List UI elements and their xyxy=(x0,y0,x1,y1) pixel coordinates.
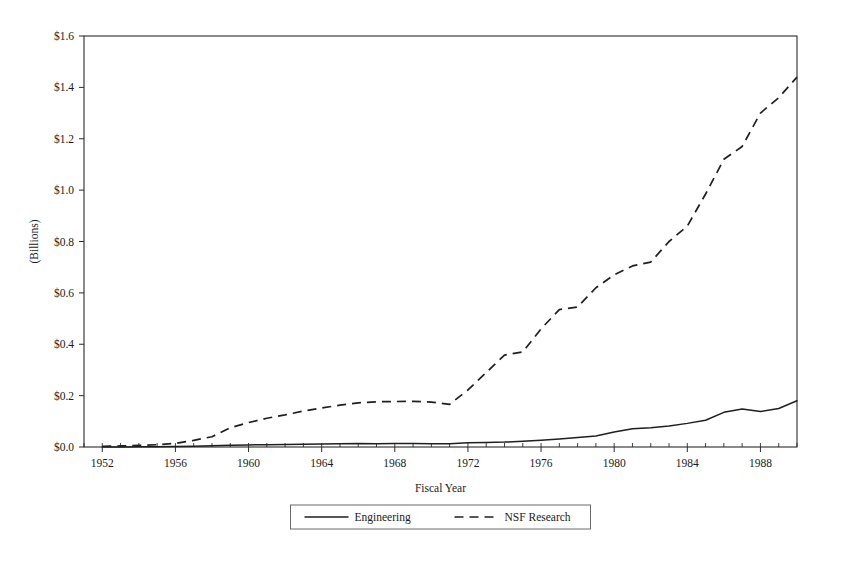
x-tick-label: 1972 xyxy=(456,457,479,469)
x-tick-label: 1980 xyxy=(603,457,626,469)
x-tick-label: 1988 xyxy=(749,457,772,469)
y-tick-label: $1.0 xyxy=(54,184,74,196)
x-tick-label: 1952 xyxy=(91,457,114,469)
y-tick-label: $0.6 xyxy=(54,287,74,299)
y-tick-label: $0.4 xyxy=(54,338,74,350)
y-tick-label: $0.2 xyxy=(54,390,74,402)
chart-figure: $0.0$0.2$0.4$0.6$0.8$1.0$1.2$1.4$1.6 195… xyxy=(0,0,843,568)
y-tick-label: $0.8 xyxy=(54,236,74,248)
y-axis-title: (Billions) xyxy=(28,219,41,263)
line-chart: $0.0$0.2$0.4$0.6$0.8$1.0$1.2$1.4$1.6 195… xyxy=(0,0,843,568)
y-tick-label: $1.2 xyxy=(54,133,74,145)
y-tick-label: $0.0 xyxy=(54,441,74,453)
x-tick-label: 1960 xyxy=(237,457,260,469)
x-tick-label: 1964 xyxy=(310,457,333,469)
legend-label-nsf-research: NSF Research xyxy=(505,511,571,523)
x-tick-label: 1984 xyxy=(676,457,699,469)
x-tick-label: 1956 xyxy=(164,457,187,469)
x-tick-label: 1976 xyxy=(530,457,553,469)
y-tick-label: $1.4 xyxy=(54,81,74,93)
chart-legend: EngineeringNSF Research xyxy=(291,505,591,529)
x-axis-title: Fiscal Year xyxy=(415,482,466,494)
x-tick-label: 1968 xyxy=(383,457,406,469)
legend-label-engineering: Engineering xyxy=(355,511,411,524)
y-tick-label: $1.6 xyxy=(54,30,74,42)
